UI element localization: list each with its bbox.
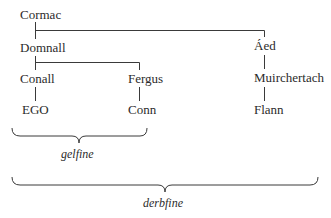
node-flann: Flann — [254, 103, 284, 117]
node-domnall: Domnall — [20, 41, 66, 55]
derbfine-brace — [12, 177, 318, 192]
derbfine-label: derbfine — [143, 197, 183, 210]
node-muirchertach: Muirchertach — [254, 71, 324, 85]
node-conn: Conn — [128, 103, 156, 117]
node-conall: Conall — [20, 72, 55, 86]
node-ego: EGO — [22, 103, 49, 117]
node-aed: Áed — [254, 39, 276, 53]
genealogy-diagram: Cormac Domnall Áed Conall Fergus Muirche… — [0, 0, 331, 218]
node-cormac: Cormac — [20, 8, 61, 22]
gelfine-brace — [12, 128, 147, 143]
gelfine-label: gelfine — [61, 148, 94, 161]
node-fergus: Fergus — [128, 72, 163, 86]
